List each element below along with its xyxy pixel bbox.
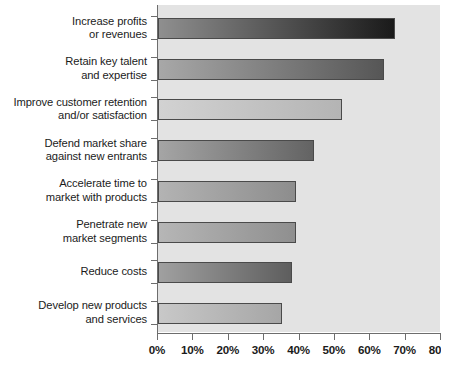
bar-row: Improve customer retentionand/or satisfa… <box>0 89 457 129</box>
y-axis-tick <box>151 16 158 17</box>
bar <box>158 262 292 283</box>
bar-category-label: Improve customer retentionand/or satisfa… <box>0 89 152 129</box>
x-axis-tick-label: 30% <box>243 343 283 356</box>
bar-category-label-line: and/or satisfaction <box>58 109 147 122</box>
y-axis-tick <box>151 324 158 325</box>
bar-category-label-line: and services <box>85 313 147 326</box>
x-axis-tick-label: 50% <box>314 343 354 356</box>
y-axis-tick <box>151 202 158 203</box>
bar-category-label-line: Reduce costs <box>80 265 147 278</box>
y-axis-tick <box>151 80 158 81</box>
bar-category-label: Defend market shareagainst new entrants <box>0 130 152 170</box>
bar-category-label-line: Penetrate new <box>76 218 147 231</box>
bar <box>158 181 296 202</box>
bar <box>158 99 342 120</box>
bar-category-label: Retain key talentand expertise <box>0 49 152 89</box>
bar <box>158 18 395 39</box>
bar-category-label: Increase profitsor revenues <box>0 8 152 48</box>
x-axis-tick-label: 20% <box>208 343 248 356</box>
x-axis-tick-label: 10% <box>172 343 212 356</box>
x-axis-tick <box>299 334 300 340</box>
bar-category-label: Reduce costs <box>0 252 152 292</box>
bar-category-label-line: Increase profits <box>72 15 147 28</box>
x-axis-tick-label: 0% <box>137 343 177 356</box>
bar <box>158 303 282 324</box>
y-axis-tick <box>151 220 158 221</box>
bar <box>158 59 384 80</box>
bar-category-label: Accelerate time tomarket with products <box>0 171 152 211</box>
bar <box>158 140 314 161</box>
bar-category-label-line: Accelerate time to <box>59 177 147 190</box>
bar-category-label-line: or revenues <box>89 28 147 41</box>
x-axis-tick <box>263 334 264 340</box>
bar-category-label-line: against new entrants <box>46 150 147 163</box>
x-axis-tick <box>192 334 193 340</box>
page-margin <box>441 0 457 365</box>
y-axis-tick <box>151 138 158 139</box>
x-axis-tick-label: 40% <box>279 343 319 356</box>
x-axis-tick <box>369 334 370 340</box>
bar-category-label-line: market with products <box>46 191 147 204</box>
bar-row: Reduce costs <box>0 252 457 292</box>
y-axis-tick <box>151 120 158 121</box>
x-axis-tick <box>405 334 406 340</box>
x-axis-tick <box>228 334 229 340</box>
bar-category-label-line: Retain key talent <box>65 55 147 68</box>
bar-category-label-line: and expertise <box>81 69 147 82</box>
bar <box>158 222 296 243</box>
bar-category-label-line: Improve customer retention <box>13 96 147 109</box>
y-axis-tick <box>151 301 158 302</box>
x-axis-tick-label: 60% <box>349 343 389 356</box>
bar-category-label: Penetrate newmarket segments <box>0 212 152 252</box>
x-axis-tick-label: 70% <box>385 343 425 356</box>
bar-category-label-line: Defend market share <box>44 137 147 150</box>
bar-row: Develop new productsand services <box>0 293 457 333</box>
bar-category-label-line: Develop new products <box>38 299 147 312</box>
y-axis-tick <box>151 260 158 261</box>
x-axis-tick <box>157 334 158 340</box>
bar-category-label-line: market segments <box>63 232 147 245</box>
x-axis-tick <box>334 334 335 340</box>
y-axis-tick <box>151 39 158 40</box>
bar-chart: Increase profitsor revenuesRetain key ta… <box>0 0 457 365</box>
y-axis-tick <box>151 161 158 162</box>
bar-row: Defend market shareagainst new entrants <box>0 130 457 170</box>
y-axis-tick <box>151 283 158 284</box>
y-axis-tick <box>151 243 158 244</box>
y-axis-tick <box>151 97 158 98</box>
bar-row: Accelerate time tomarket with products <box>0 171 457 211</box>
y-axis-tick <box>151 179 158 180</box>
bar-row: Retain key talentand expertise <box>0 49 457 89</box>
y-axis-tick <box>151 57 158 58</box>
bar-row: Increase profitsor revenues <box>0 8 457 48</box>
bar-category-label: Develop new productsand services <box>0 293 152 333</box>
bar-row: Penetrate newmarket segments <box>0 212 457 252</box>
